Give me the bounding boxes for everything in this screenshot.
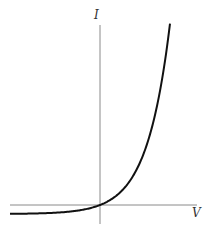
iv-curve-diagram [0,0,210,232]
y-axis-label: I [94,8,99,22]
x-axis-label: V [192,206,201,220]
iv-curve [10,24,170,214]
